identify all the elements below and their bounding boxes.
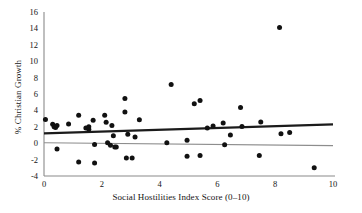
data-point [287,130,292,135]
data-point [109,123,114,128]
data-point [114,144,119,149]
data-points-group [43,25,317,170]
data-point [185,154,190,159]
x-axis-tick-labels: 0246810 [42,179,337,189]
y-tick-label: -4 [31,171,39,181]
y-tick-label: 2 [34,122,38,132]
y-tick-label: 8 [34,73,38,83]
y-tick-label: 10 [30,56,39,66]
data-point [239,124,244,129]
y-tick-label: 4 [34,105,39,115]
data-point [76,160,81,165]
data-point [43,117,48,122]
data-point [86,124,91,129]
x-axis-title: Social Hostilities Index Score (0–10) [0,192,362,202]
data-point [164,140,169,145]
data-point [92,142,97,147]
data-point [66,121,71,126]
y-tick-label: 16 [30,7,39,17]
data-point [185,138,190,143]
data-point [124,155,129,160]
data-point [205,126,210,131]
y-axis-tick-labels: -4-20246810121416 [30,7,39,181]
data-point [137,117,142,122]
data-point [55,146,60,151]
data-point [111,133,116,138]
y-tick-label: 14 [30,23,39,33]
y-tick-label: 0 [34,138,38,148]
data-point [122,96,127,101]
data-point [133,135,138,140]
data-point [221,121,226,126]
x-tick-label: 4 [157,179,162,189]
data-point [130,155,135,160]
x-tick-label: 0 [42,179,46,189]
data-point [55,123,60,128]
data-point [104,120,109,125]
y-tick-label: 12 [30,40,39,50]
data-point [198,98,203,103]
data-point [92,160,97,165]
data-point [257,153,262,158]
data-point [258,119,263,124]
data-point [312,165,317,170]
scatter-chart: -4-20246810121416 0246810 Social Hostili… [0,0,362,213]
x-tick-label: 8 [273,179,277,189]
data-point [169,82,174,87]
data-point [198,153,203,158]
data-point [277,25,282,30]
x-tick-label: 6 [215,179,219,189]
data-point [102,113,107,118]
data-point [278,131,283,136]
data-point [108,143,113,148]
data-point [222,142,227,147]
data-point [228,133,233,138]
data-point [122,110,127,115]
plot-area: -4-20246810121416 0246810 [0,0,362,213]
y-axis-title: % Christian Growth [13,27,23,167]
x-tick-label: 2 [100,179,104,189]
data-point [238,105,243,110]
data-point [91,118,96,123]
y-tick-label: 6 [34,89,38,99]
data-point [76,113,81,118]
y-tick-label: -2 [31,155,38,165]
data-point [192,101,197,106]
zero-reference-line [44,143,333,146]
x-tick-label: 10 [329,179,338,189]
data-point [125,132,130,137]
data-point [211,123,216,128]
